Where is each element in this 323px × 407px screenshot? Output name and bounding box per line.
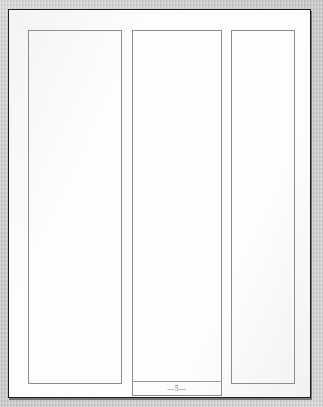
text-frame: —5— [28, 30, 295, 384]
page-number: —5— [168, 385, 187, 392]
page-footer: —5— [132, 381, 222, 396]
page-sheet: —5— [8, 9, 311, 398]
column-center [132, 30, 222, 396]
column-left [28, 30, 122, 384]
column-right [231, 30, 295, 384]
scanned-page-canvas: —5— [0, 0, 323, 407]
